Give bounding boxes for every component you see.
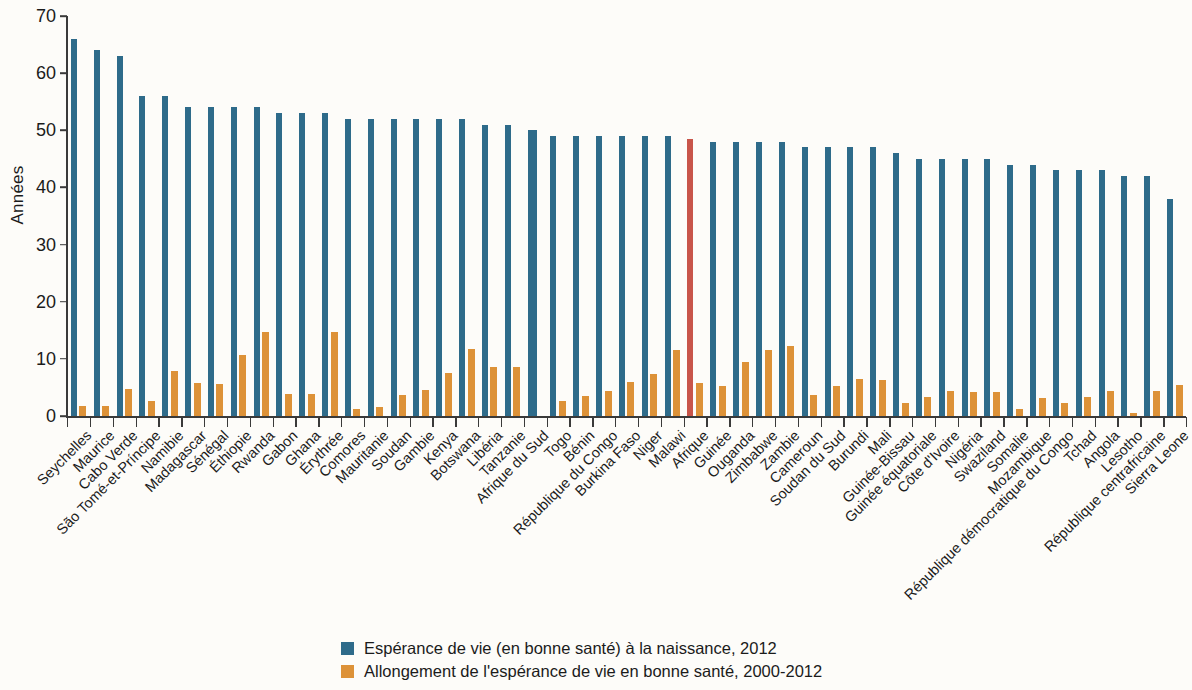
bar-healthy-life-expectancy bbox=[847, 147, 853, 416]
bar-life-expectancy-gain bbox=[399, 395, 406, 416]
bar-healthy-life-expectancy bbox=[1121, 176, 1127, 416]
x-axis-tick-mark bbox=[250, 417, 251, 427]
x-axis-tick-mark bbox=[843, 417, 844, 427]
x-axis-tick-mark bbox=[592, 417, 593, 427]
x-axis-tick-mark bbox=[1072, 417, 1073, 427]
bar-group bbox=[250, 16, 273, 416]
bar-life-expectancy-gain bbox=[171, 371, 178, 416]
x-axis-labels: SeychellesMauriceCabo VerdeSão Tomé-et-P… bbox=[0, 428, 1192, 628]
bar-group bbox=[638, 16, 661, 416]
bar-healthy-life-expectancy bbox=[1053, 170, 1059, 416]
bar-life-expectancy-gain bbox=[1061, 403, 1068, 416]
bar-life-expectancy-gain bbox=[445, 373, 452, 416]
bar-group bbox=[158, 16, 181, 416]
bar-group bbox=[958, 16, 981, 416]
bar-life-expectancy-gain bbox=[902, 403, 909, 416]
x-axis-tick-mark bbox=[67, 417, 68, 427]
bar-healthy-life-expectancy bbox=[665, 136, 671, 416]
x-axis-tick-mark bbox=[912, 417, 913, 427]
x-axis-tick-mark bbox=[1049, 417, 1050, 427]
bar-group bbox=[821, 16, 844, 416]
legend-label: Espérance de vie (en bonne santé) à la n… bbox=[364, 639, 777, 658]
bar-group bbox=[136, 16, 159, 416]
x-axis-tick-mark bbox=[158, 417, 159, 427]
bar-group bbox=[1026, 16, 1049, 416]
bar-healthy-life-expectancy bbox=[939, 159, 945, 416]
bar-healthy-life-expectancy bbox=[893, 153, 899, 416]
bar-group bbox=[90, 16, 113, 416]
bar-life-expectancy-gain bbox=[262, 332, 269, 416]
bar-healthy-life-expectancy bbox=[642, 136, 648, 416]
bar-group bbox=[455, 16, 478, 416]
bar-healthy-life-expectancy bbox=[482, 125, 488, 416]
bar-life-expectancy-gain bbox=[125, 389, 132, 416]
bar-healthy-life-expectancy bbox=[231, 107, 237, 416]
bar-life-expectancy-gain bbox=[924, 397, 931, 416]
bar-group bbox=[113, 16, 136, 416]
bar-life-expectancy-gain bbox=[582, 396, 589, 416]
x-axis-tick-mark bbox=[113, 417, 114, 427]
bar-healthy-life-expectancy bbox=[984, 159, 990, 416]
x-axis-tick-mark bbox=[1117, 417, 1118, 427]
x-axis-tick-mark bbox=[569, 417, 570, 427]
x-axis-tick-mark bbox=[935, 417, 936, 427]
bar-life-expectancy-gain bbox=[513, 367, 520, 416]
x-axis-tick-mark bbox=[980, 417, 981, 427]
bar-healthy-life-expectancy bbox=[870, 147, 876, 416]
x-axis-tick-mark bbox=[455, 417, 456, 427]
x-axis-tick-mark bbox=[295, 417, 296, 427]
x-axis-tick-mark bbox=[866, 417, 867, 427]
bar-group bbox=[410, 16, 433, 416]
bar-group bbox=[889, 16, 912, 416]
bar-life-expectancy-gain bbox=[239, 355, 246, 416]
bar-life-expectancy-gain bbox=[765, 350, 772, 416]
bar-healthy-life-expectancy bbox=[1144, 176, 1150, 416]
bar-healthy-life-expectancy bbox=[94, 50, 100, 416]
bar-group bbox=[935, 16, 958, 416]
x-axis-tick-mark bbox=[1186, 417, 1187, 427]
bar-healthy-life-expectancy bbox=[1167, 199, 1173, 416]
x-axis-tick-mark bbox=[752, 417, 753, 427]
bar-healthy-life-expectancy bbox=[916, 159, 922, 416]
bar-group bbox=[387, 16, 410, 416]
x-axis-tick-mark bbox=[90, 417, 91, 427]
bar-healthy-life-expectancy bbox=[139, 96, 145, 416]
x-axis-tick-mark bbox=[432, 417, 433, 427]
bar-life-expectancy-gain bbox=[1039, 398, 1046, 416]
x-axis-tick-mark bbox=[341, 417, 342, 427]
bar-healthy-life-expectancy bbox=[162, 96, 168, 416]
x-axis-tick-mark bbox=[387, 417, 388, 427]
bar-healthy-life-expectancy bbox=[505, 125, 511, 416]
bar-healthy-life-expectancy bbox=[687, 139, 693, 416]
bar-life-expectancy-gain bbox=[148, 401, 155, 416]
bar-healthy-life-expectancy bbox=[802, 147, 808, 416]
y-axis-tick-label: 50 bbox=[36, 120, 56, 141]
bar-healthy-life-expectancy bbox=[1076, 170, 1082, 416]
y-axis-ticks: 010203040506070 bbox=[0, 0, 66, 430]
bar-group bbox=[67, 16, 90, 416]
bar-group bbox=[752, 16, 775, 416]
bar-healthy-life-expectancy bbox=[254, 107, 260, 416]
bar-healthy-life-expectancy bbox=[962, 159, 968, 416]
x-axis-tick-mark bbox=[204, 417, 205, 427]
bar-group bbox=[1163, 16, 1186, 416]
bar-group bbox=[204, 16, 227, 416]
bar-life-expectancy-gain bbox=[719, 386, 726, 416]
x-axis-tick-mark bbox=[1095, 417, 1096, 427]
bar-healthy-life-expectancy bbox=[528, 130, 537, 416]
bar-life-expectancy-gain bbox=[627, 382, 634, 416]
bar-life-expectancy-gain bbox=[879, 380, 886, 416]
bar-life-expectancy-gain bbox=[1107, 391, 1114, 416]
bar-life-expectancy-gain bbox=[1016, 409, 1023, 416]
bar-group bbox=[547, 16, 570, 416]
bar-group bbox=[501, 16, 524, 416]
x-axis-tick-mark bbox=[684, 417, 685, 427]
bar-healthy-life-expectancy bbox=[573, 136, 579, 416]
bar-group bbox=[1072, 16, 1095, 416]
x-axis-tick-mark bbox=[1163, 417, 1164, 427]
bar-life-expectancy-gain bbox=[947, 391, 954, 416]
bar-life-expectancy-gain bbox=[696, 383, 703, 416]
bar-group bbox=[1003, 16, 1026, 416]
legend-item: Espérance de vie (en bonne santé) à la n… bbox=[341, 639, 1041, 658]
bar-group bbox=[684, 16, 707, 416]
